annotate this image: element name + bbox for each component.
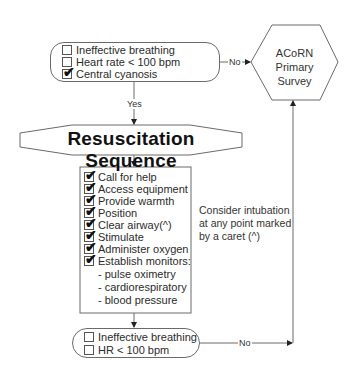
item-label: Ineffective breathing	[76, 44, 175, 56]
page-title: Resuscitation Sequence	[20, 128, 242, 172]
checklist-item-central-cyanosis[interactable]: ✔ Central cyanosis	[62, 68, 157, 80]
intubation-note: Consider intubation at any point marked …	[199, 204, 291, 243]
checklist-item[interactable]: ✔Clear airway(^)	[84, 219, 172, 231]
monitor-sub-item: - cardiorespiratory	[98, 281, 187, 293]
item-label: Call for help	[98, 171, 157, 183]
checklist-item-ineffective-breathing[interactable]: Ineffective breathing	[84, 331, 197, 343]
yes-label: Yes	[126, 99, 143, 109]
item-label: Establish monitors:	[98, 255, 191, 267]
checklist-item-hr[interactable]: HR < 100 bpm	[84, 344, 169, 356]
hexagon-line-1: ACoRN	[251, 46, 338, 60]
reassessment-box: Ineffective breathing HR < 100 bpm	[72, 328, 200, 358]
initial-assessment-box: Ineffective breathing Heart rate < 100 b…	[50, 42, 220, 82]
item-label: Central cyanosis	[76, 68, 157, 80]
checklist-item[interactable]: ✔Provide warmth	[84, 195, 174, 207]
checklist-item[interactable]: ✔Access equipment	[84, 183, 188, 195]
checked-checkbox-icon[interactable]: ✔	[84, 256, 94, 266]
item-label: Heart rate < 100 bpm	[76, 56, 180, 68]
item-label: Stimulate	[98, 231, 144, 243]
note-line-3: by a caret (^)	[199, 230, 291, 243]
checkmark-icon: ✔	[85, 252, 97, 266]
checked-checkbox-icon[interactable]: ✔	[62, 69, 72, 79]
checklist-item[interactable]: ✔Establish monitors:	[84, 255, 191, 267]
hexagon-line-3: Survey	[251, 74, 338, 88]
item-label: Ineffective breathing	[98, 331, 197, 343]
note-line-2: at any point marked	[199, 217, 291, 230]
checklist-item[interactable]: ✔Administer oxygen	[84, 243, 189, 255]
acorn-primary-survey: ACoRN Primary Survey	[251, 46, 338, 88]
item-label: Access equipment	[98, 183, 188, 195]
hexagon-line-2: Primary	[251, 60, 338, 74]
checklist-item-ineffective-breathing[interactable]: Ineffective breathing	[62, 44, 175, 56]
checkbox-icon[interactable]	[62, 45, 72, 55]
no-label-bottom: No	[238, 338, 252, 348]
item-label: Administer oxygen	[98, 243, 189, 255]
item-label: HR < 100 bpm	[98, 344, 169, 356]
monitor-sub-item: - pulse oximetry	[98, 268, 176, 280]
no-label-top: No	[228, 57, 242, 67]
checkbox-icon[interactable]	[84, 345, 94, 355]
item-label: Provide warmth	[98, 195, 174, 207]
note-line-1: Consider intubation	[199, 204, 291, 217]
checkbox-icon[interactable]	[84, 332, 94, 342]
monitor-sub-item: - blood pressure	[98, 294, 178, 306]
checkmark-icon: ✔	[63, 65, 75, 79]
item-label: Clear airway(^)	[98, 219, 172, 231]
item-label: Position	[98, 207, 137, 219]
checklist-item-heart-rate[interactable]: Heart rate < 100 bpm	[62, 56, 180, 68]
